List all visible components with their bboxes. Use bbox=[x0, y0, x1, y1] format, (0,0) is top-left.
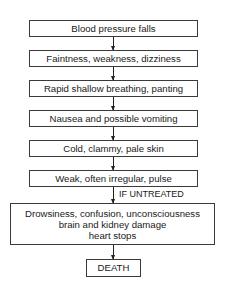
arrow-down-icon bbox=[113, 187, 114, 203]
step-label: Weak, often irregular, pulse bbox=[55, 173, 172, 184]
step-label: Blood pressure falls bbox=[71, 23, 155, 34]
untreated-line: heart stops bbox=[11, 230, 214, 241]
untreated-line: brain and kidney damage bbox=[11, 219, 214, 230]
step-box-faintness: Faintness, weakness, dizziness bbox=[29, 50, 198, 67]
step-box-pulse: Weak, often irregular, pulse bbox=[29, 170, 198, 187]
arrow-down-icon bbox=[113, 127, 114, 140]
arrow-down-icon bbox=[113, 97, 114, 110]
arrow-down-icon bbox=[113, 67, 114, 80]
step-label: Nausea and possible vomiting bbox=[50, 113, 178, 124]
untreated-line: Drowsiness, confusion, unconsciousness bbox=[11, 208, 214, 219]
untreated-box: Drowsiness, confusion, unconsciousness b… bbox=[10, 203, 215, 245]
arrow-down-icon bbox=[113, 245, 114, 259]
step-box-nausea: Nausea and possible vomiting bbox=[29, 110, 198, 127]
step-label: Cold, clammy, pale skin bbox=[63, 143, 164, 154]
final-box-death: DEATH bbox=[86, 259, 141, 277]
step-box-blood-pressure: Blood pressure falls bbox=[29, 20, 198, 37]
step-label: Rapid shallow breathing, panting bbox=[44, 83, 183, 94]
arrow-down-icon bbox=[113, 157, 114, 170]
final-label: DEATH bbox=[98, 262, 130, 273]
arrow-down-icon bbox=[113, 37, 114, 50]
step-label: Faintness, weakness, dizziness bbox=[46, 53, 180, 64]
step-box-breathing: Rapid shallow breathing, panting bbox=[29, 80, 198, 97]
branch-label: IF UNTREATED bbox=[119, 189, 184, 199]
step-box-skin: Cold, clammy, pale skin bbox=[29, 140, 198, 157]
